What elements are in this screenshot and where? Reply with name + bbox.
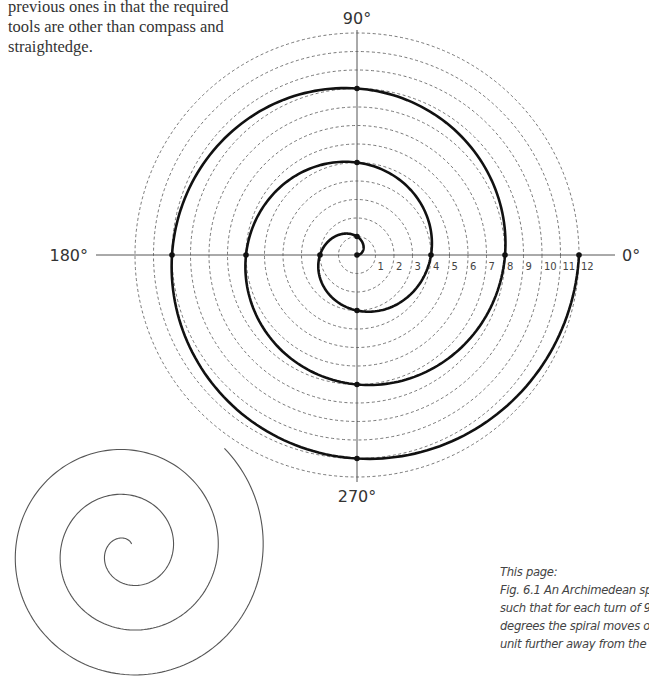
label-270-degrees: 270° bbox=[338, 487, 377, 506]
label-90-degrees: 90° bbox=[343, 9, 371, 28]
tick-label: 12 bbox=[581, 261, 594, 272]
spiral-point bbox=[354, 252, 360, 258]
label-180-degrees: 180° bbox=[49, 246, 88, 265]
tick-label: 9 bbox=[526, 261, 532, 272]
spiral-point bbox=[354, 160, 360, 166]
spiral-point bbox=[317, 252, 323, 258]
spiral-point bbox=[428, 252, 434, 258]
caption-heading: This page: bbox=[500, 563, 646, 581]
caption-line-4: unit further away from the pole. bbox=[500, 635, 646, 653]
spiral-point bbox=[502, 252, 508, 258]
tick-label: 3 bbox=[415, 261, 421, 272]
tick-label: 8 bbox=[507, 261, 513, 272]
label-0-degrees: 0° bbox=[622, 246, 640, 265]
spiral-point bbox=[354, 456, 360, 462]
tick-label: 1 bbox=[378, 261, 384, 272]
caption-line-2: such that for each turn of 90 bbox=[500, 599, 646, 617]
caption-line-3: degrees the spiral moves one bbox=[500, 617, 646, 635]
tick-label: 7 bbox=[489, 261, 495, 272]
tick-label: 5 bbox=[452, 261, 458, 272]
tick-label: 4 bbox=[433, 261, 439, 272]
spiral-point bbox=[169, 252, 175, 258]
caption-line-1: Fig. 6.1 An Archimedean spiral bbox=[500, 581, 646, 599]
spiral-point bbox=[354, 234, 360, 240]
spiral-point bbox=[354, 308, 360, 314]
spiral-point bbox=[354, 86, 360, 92]
tick-label: 11 bbox=[563, 261, 576, 272]
tick-label: 2 bbox=[396, 261, 402, 272]
tick-label: 10 bbox=[544, 261, 557, 272]
figure-caption: This page: Fig. 6.1 An Archimedean spira… bbox=[500, 563, 646, 653]
spiral-point bbox=[576, 252, 582, 258]
spiral-point bbox=[243, 252, 249, 258]
spiral-point bbox=[354, 382, 360, 388]
tick-label: 6 bbox=[470, 261, 476, 272]
small-spiral-illustration bbox=[15, 448, 263, 675]
